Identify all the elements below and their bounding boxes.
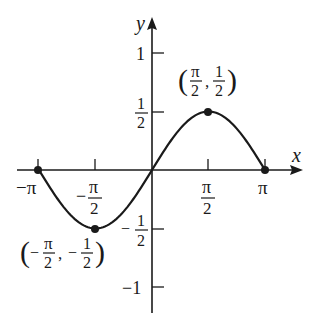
svg-text:,: , xyxy=(58,244,62,263)
svg-text:1: 1 xyxy=(137,95,145,112)
svg-text:2: 2 xyxy=(137,232,145,249)
svg-text:(: ( xyxy=(178,63,188,97)
svg-text:π: π xyxy=(191,62,200,81)
svg-text:): ) xyxy=(227,63,237,97)
svg-text:π: π xyxy=(89,177,98,197)
point-min xyxy=(91,225,99,233)
y-tick-neg-half: − 1 2 xyxy=(121,212,148,249)
svg-text:2: 2 xyxy=(215,82,223,99)
svg-text:2: 2 xyxy=(203,199,212,218)
svg-text:): ) xyxy=(95,235,105,269)
min-point-label: ( − π 2 , − 1 2 ) xyxy=(20,234,105,271)
y-axis-label: y xyxy=(134,12,145,35)
x-axis-label: x xyxy=(291,144,301,166)
svg-text:2: 2 xyxy=(191,82,199,99)
svg-text:2: 2 xyxy=(83,254,91,271)
max-point-label: ( π 2 , 1 2 ) xyxy=(178,62,237,99)
y-tick-1: 1 xyxy=(136,44,145,64)
svg-text:π: π xyxy=(44,234,53,253)
y-tick-neg-1: −1 xyxy=(122,278,141,298)
point-max xyxy=(204,108,212,116)
svg-text:−: − xyxy=(68,244,77,261)
x-tick-neg-pi: −π xyxy=(16,177,37,198)
svg-text:π: π xyxy=(202,177,211,197)
x-tick-neg-pi-half: − π 2 xyxy=(76,177,102,218)
svg-text:2: 2 xyxy=(137,114,145,131)
point-neg-pi xyxy=(34,166,42,174)
axes xyxy=(17,26,296,313)
svg-text:−: − xyxy=(121,220,130,237)
svg-text:−: − xyxy=(76,186,86,206)
x-tick-pi-half: π 2 xyxy=(201,177,215,218)
svg-text:1: 1 xyxy=(83,235,91,252)
svg-text:1: 1 xyxy=(137,212,145,229)
point-pi xyxy=(261,166,269,174)
svg-text:(: ( xyxy=(20,235,30,269)
x-tick-pi: π xyxy=(258,177,268,198)
sine-chart: y x −π − π 2 π 2 π 1 1 2 − 1 2 −1 ( π 2 … xyxy=(0,0,317,315)
svg-text:2: 2 xyxy=(44,254,52,271)
svg-text:2: 2 xyxy=(90,199,99,218)
svg-text:,: , xyxy=(205,72,209,91)
svg-text:−: − xyxy=(30,244,39,261)
y-tick-half: 1 2 xyxy=(135,95,148,131)
svg-text:1: 1 xyxy=(215,63,223,80)
